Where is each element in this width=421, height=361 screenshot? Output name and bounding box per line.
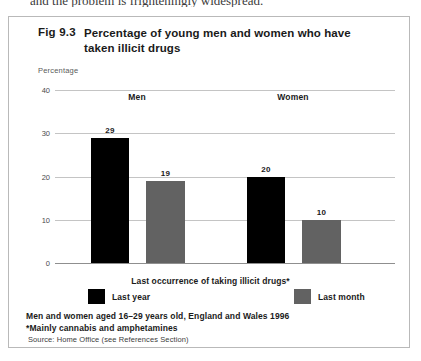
y-axis-tick-20: 20 xyxy=(42,172,50,181)
chart-legend: Last yearLast month xyxy=(88,289,348,305)
figure-title: Percentage of young men and women who ha… xyxy=(84,26,384,56)
bar-men-last-year xyxy=(91,138,129,263)
figure-footnotes: Men and women aged 16–29 years old, Engl… xyxy=(26,311,396,334)
y-axis-tick-40: 40 xyxy=(42,86,50,95)
legend-swatch-icon xyxy=(294,289,311,304)
gridline-0 xyxy=(55,263,395,264)
bar-men-last-month xyxy=(146,181,185,263)
legend-item-last-year: Last year xyxy=(88,289,150,304)
legend-swatch-icon xyxy=(88,289,105,304)
bar-value-label: 10 xyxy=(317,208,326,217)
gridline-40 xyxy=(55,90,395,91)
y-axis-tick-0: 0 xyxy=(46,259,50,268)
bar-value-label: 29 xyxy=(105,126,114,135)
bar-women-last-year xyxy=(247,177,285,264)
page-body-text-fragment: and the problem is frighteningly widespr… xyxy=(30,0,330,7)
x-axis-caption: Last occurrence of taking illicit drugs* xyxy=(0,276,421,286)
y-axis-tick-30: 30 xyxy=(42,129,50,138)
figure-number: Fig 9.3 xyxy=(38,26,76,38)
footnote-1: *Mainly cannabis and amphetamines xyxy=(26,323,396,335)
footnote-0: Men and women aged 16–29 years old, Engl… xyxy=(26,311,396,323)
chart-plot-area: 010203040MenWomen29192010 xyxy=(55,90,395,263)
group-label-men: Men xyxy=(128,92,146,102)
legend-item-last-month: Last month xyxy=(294,289,365,304)
figure-source: Source: Home Office (see References Sect… xyxy=(28,335,189,344)
bar-value-label: 20 xyxy=(261,165,270,174)
group-label-women: Women xyxy=(277,92,309,102)
legend-label: Last month xyxy=(318,292,365,302)
bar-value-label: 19 xyxy=(161,169,170,178)
y-axis-label: Percentage xyxy=(38,66,78,75)
y-axis-tick-10: 10 xyxy=(42,215,50,224)
legend-label: Last year xyxy=(112,292,150,302)
bar-women-last-month xyxy=(302,220,341,263)
